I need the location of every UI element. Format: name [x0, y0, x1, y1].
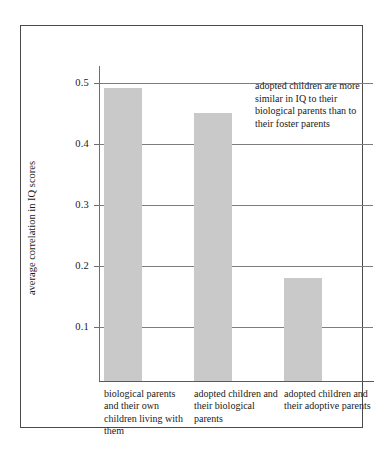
- bar-adopted-children-adoptive-parents: [284, 278, 322, 381]
- ytick-label-0.3: 0.3: [59, 199, 89, 210]
- bar-adopted-children-biological-parents: [194, 113, 232, 381]
- y-axis-line: [99, 66, 100, 382]
- ytick-label-0.1: 0.1: [59, 321, 89, 332]
- category-label-2: adopted children and their biological pa…: [194, 388, 282, 425]
- x-axis-line: [99, 381, 374, 382]
- chart-annotation: adopted children are more similar in IQ …: [255, 80, 377, 130]
- ytick-label-0.2: 0.2: [59, 260, 89, 271]
- ytick-label-0.5: 0.5: [59, 77, 89, 88]
- chart-frame: 0.5 0.4 0.3 0.2 0.1 average correlation …: [20, 25, 363, 428]
- bar-biological-parents-own-children: [104, 88, 142, 381]
- figure-canvas: 0.5 0.4 0.3 0.2 0.1 average correlation …: [0, 0, 379, 453]
- y-axis-title: average correlation in IQ scores: [26, 123, 38, 333]
- category-label-3: adopted children and their adoptive pare…: [284, 388, 372, 413]
- category-label-1: biological parents and their own childre…: [104, 388, 192, 438]
- ytick-label-0.4: 0.4: [59, 138, 89, 149]
